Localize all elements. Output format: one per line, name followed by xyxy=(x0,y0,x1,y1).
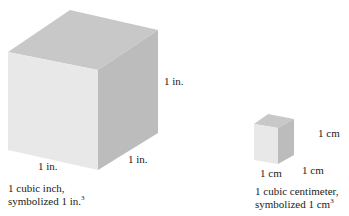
small-cube-caption-exponent: 3 xyxy=(330,197,334,205)
small-cube-caption-line2-wrap: symbolized 1 cm3 xyxy=(255,198,339,211)
small-cube-caption-line1: 1 cubic centimeter, xyxy=(255,185,339,198)
large-cube-front-face xyxy=(8,52,98,170)
small-cube-caption: 1 cubic centimeter, symbolized 1 cm3 xyxy=(255,185,339,211)
small-cube xyxy=(254,114,294,164)
small-cube-front-face xyxy=(254,124,278,164)
small-cube-caption-line2: symbolized 1 cm xyxy=(255,198,330,210)
large-cube-height-label: 1 in. xyxy=(164,75,184,88)
small-cube-height-label: 1 cm xyxy=(318,127,340,140)
large-cube xyxy=(8,10,158,170)
small-cube-width-label: 1 cm xyxy=(260,167,282,180)
large-cube-width-label: 1 in. xyxy=(38,160,58,173)
large-cube-caption-line2-wrap: symbolized 1 in.3 xyxy=(8,195,85,208)
large-cube-caption: 1 cubic inch, symbolized 1 in.3 xyxy=(8,182,85,208)
small-cube-depth-label: 1 cm xyxy=(302,164,324,177)
large-cube-caption-line1: 1 cubic inch, xyxy=(8,182,85,195)
large-cube-depth-label: 1 in. xyxy=(128,153,148,166)
large-cube-caption-exponent: 3 xyxy=(81,194,85,202)
large-cube-caption-line2: symbolized 1 in. xyxy=(8,195,81,207)
